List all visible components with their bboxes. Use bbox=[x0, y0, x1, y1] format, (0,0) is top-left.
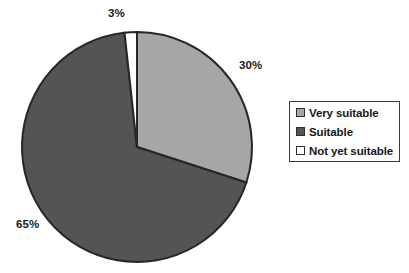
legend-label-suitable: Suitable bbox=[309, 126, 353, 138]
pie-label-not-yet-suitable: 3% bbox=[108, 7, 125, 19]
legend-swatch-very-suitable bbox=[296, 108, 305, 117]
legend-label-not-yet-suitable: Not yet suitable bbox=[309, 145, 393, 157]
pie-chart: 3% 30% 65% Very suitable Suitable Not ye… bbox=[0, 0, 409, 273]
legend-label-very-suitable: Very suitable bbox=[309, 107, 379, 119]
legend-swatch-not-yet-suitable bbox=[296, 146, 305, 155]
pie-label-very-suitable: 30% bbox=[239, 59, 262, 71]
legend-swatch-suitable bbox=[296, 127, 305, 136]
legend-item-suitable[interactable]: Suitable bbox=[296, 122, 394, 141]
legend-item-not-yet-suitable[interactable]: Not yet suitable bbox=[296, 141, 394, 160]
legend-item-very-suitable[interactable]: Very suitable bbox=[296, 103, 394, 122]
chart-legend: Very suitable Suitable Not yet suitable bbox=[289, 101, 400, 162]
pie-label-suitable: 65% bbox=[16, 218, 39, 230]
